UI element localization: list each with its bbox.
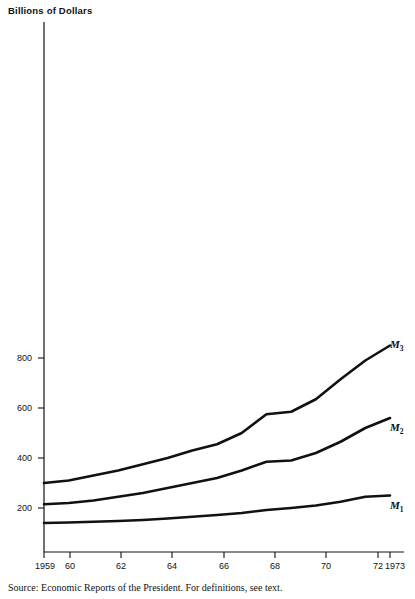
series-label-m1-subscript: 1: [400, 505, 404, 514]
y-tick-label-200: 200: [6, 503, 32, 513]
x-tick-label-66: 66: [212, 561, 236, 571]
x-tick-label-70: 70: [314, 561, 338, 571]
x-tick-label-1973: 1973: [378, 561, 412, 571]
plot-area: [0, 0, 415, 599]
series-lines: [44, 346, 390, 524]
x-axis-ticks: [44, 552, 390, 558]
x-tick-label-62: 62: [109, 561, 133, 571]
series-label-m3-subscript: 3: [400, 344, 404, 353]
series-label-m3: M3: [390, 338, 404, 353]
series-line-m3: [44, 346, 390, 484]
series-label-m2-text: M: [390, 421, 400, 433]
axis-lines: [44, 22, 404, 552]
x-tick-label-60: 60: [58, 561, 82, 571]
series-label-m1: M1: [390, 499, 404, 514]
series-label-m1-text: M: [390, 499, 400, 511]
x-tick-label-68: 68: [263, 561, 287, 571]
source-note: Source: Economic Reports of the Presiden…: [8, 582, 282, 593]
series-line-m2: [44, 418, 390, 504]
y-axis-ticks: [38, 358, 44, 508]
money-supply-chart: Billions of Dollars 2: [0, 0, 415, 599]
y-tick-label-400: 400: [6, 453, 32, 463]
series-label-m2-subscript: 2: [400, 427, 404, 436]
series-label-m2: M2: [390, 421, 404, 436]
y-tick-label-800: 800: [6, 353, 32, 363]
x-tick-label-1959: 1959: [30, 561, 60, 571]
series-label-m3-text: M: [390, 338, 400, 350]
x-tick-label-64: 64: [160, 561, 184, 571]
y-tick-label-600: 600: [6, 403, 32, 413]
